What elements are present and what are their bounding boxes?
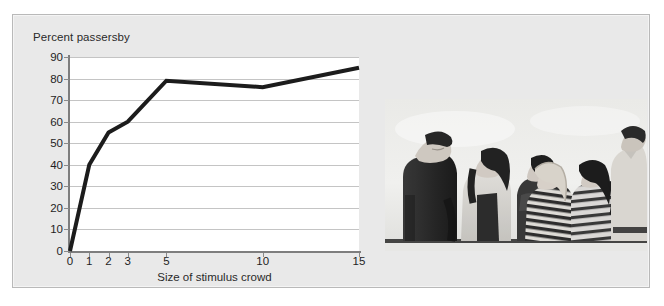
y-axis-tick-mark: [64, 122, 69, 123]
gridline: [70, 79, 359, 80]
y-axis-tick-mark: [64, 100, 69, 101]
figure-screenshot: Percent passersby 0102030405060708090 01…: [0, 0, 664, 306]
y-axis-line: [68, 55, 70, 253]
figure-panel: Percent passersby 0102030405060708090 01…: [12, 14, 650, 288]
x-axis-tick-mark: [89, 253, 90, 257]
y-axis-tick-label: 70: [37, 94, 63, 106]
x-axis-line: [68, 251, 361, 253]
y-axis-tick-mark: [64, 186, 69, 187]
y-axis-tick-mark: [64, 208, 69, 209]
y-axis-tick-mark: [64, 165, 69, 166]
y-axis-tick-label: 10: [37, 223, 63, 235]
crowd-looking-up-photo: [385, 99, 647, 251]
gridline: [70, 229, 359, 230]
plot-area: [70, 57, 359, 251]
gridline: [70, 208, 359, 209]
gridline: [70, 165, 359, 166]
x-axis-tick-mark: [263, 253, 264, 257]
y-axis-tick-label: 0: [37, 245, 63, 257]
gridline: [70, 186, 359, 187]
x-axis-tick-mark: [166, 253, 167, 257]
y-axis-tick-mark: [64, 143, 69, 144]
y-axis-tick-mark: [64, 229, 69, 230]
x-axis-tick-mark: [109, 253, 110, 257]
gridline: [70, 100, 359, 101]
y-axis-tick-mark: [64, 79, 69, 80]
y-axis-tick-mark: [64, 251, 69, 252]
y-axis-tick-label: 20: [37, 202, 63, 214]
y-axis-tick-label: 30: [37, 180, 63, 192]
gridline: [70, 57, 359, 58]
y-axis-tick-label: 40: [37, 159, 63, 171]
gridline: [70, 143, 359, 144]
y-axis-tick-label: 90: [37, 51, 63, 63]
x-axis-tick-mark: [128, 253, 129, 257]
y-axis-tick-labels: 0102030405060708090: [13, 15, 63, 289]
y-axis-tick-label: 50: [37, 137, 63, 149]
x-axis-title: Size of stimulus crowd: [70, 271, 359, 283]
y-axis-tick-label: 80: [37, 73, 63, 85]
y-axis-tick-mark: [64, 57, 69, 58]
x-axis-tick-mark: [359, 253, 360, 257]
y-axis-tick-label: 60: [37, 116, 63, 128]
gridline: [70, 122, 359, 123]
x-axis-tick-mark: [70, 253, 71, 257]
line-chart: Percent passersby 0102030405060708090 01…: [13, 15, 388, 289]
